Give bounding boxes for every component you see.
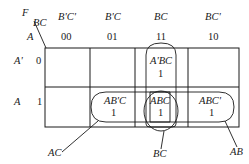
column-code-00: 00 (61, 32, 72, 43)
cell-value-ab-not-c: 1 (111, 108, 116, 119)
row-variable-label: A (27, 32, 33, 43)
group-label-bc: BC (153, 149, 166, 160)
leader-bc (161, 131, 164, 149)
column-code-01: 01 (107, 32, 118, 43)
cell-value-a-not-bc: 1 (158, 69, 163, 80)
column-term-11: BC (154, 12, 167, 23)
column-term-10: BC' (205, 12, 221, 23)
row-code-1: 1 (37, 97, 42, 108)
cell-value-abc: 1 (158, 108, 163, 119)
row-code-0: 0 (36, 56, 41, 67)
column-code-11: 11 (156, 32, 166, 43)
column-term-01: B'C (105, 12, 121, 23)
cell-minterm-abc-not: ABC' (199, 96, 221, 107)
cell-minterm-ab-not-c: AB'C (104, 96, 126, 107)
cell-minterm-a-not-bc: A'BC (150, 56, 172, 67)
cell-minterm-abc: ABC (150, 96, 170, 107)
cell-value-abc-not: 1 (209, 108, 214, 119)
leader-ac (62, 121, 98, 152)
column-term-00: B'C' (58, 12, 76, 23)
row-term-0: A' (14, 56, 23, 67)
row-term-1: A (14, 97, 20, 108)
group-label-ab: AB (230, 147, 243, 158)
column-code-10: 10 (208, 32, 219, 43)
group-label-ac: AC (48, 148, 61, 159)
leader-ab (225, 121, 237, 147)
function-label: F (22, 8, 28, 19)
column-variable-label: BC (33, 18, 46, 29)
